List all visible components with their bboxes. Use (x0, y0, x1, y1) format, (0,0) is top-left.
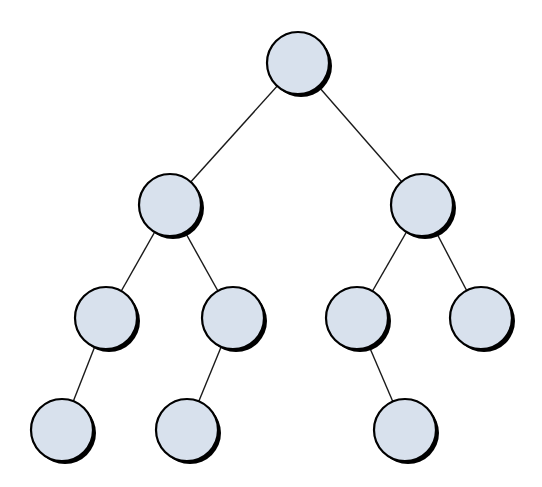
node-circle (267, 32, 329, 94)
tree-node-l1-left (139, 174, 204, 239)
tree-node-l3-a (31, 399, 96, 464)
node-circle (326, 287, 388, 349)
node-circle (75, 287, 137, 349)
node-circle (156, 399, 218, 461)
tree-diagram (0, 0, 542, 487)
tree-node-l3-b (156, 399, 221, 464)
node-circle (139, 174, 201, 236)
tree-node-l2-d (450, 287, 515, 352)
node-circle (391, 174, 453, 236)
tree-node-l2-a (75, 287, 140, 352)
nodes-layer (31, 32, 515, 464)
node-circle (374, 399, 436, 461)
tree-node-l3-c (374, 399, 439, 464)
tree-node-l2-b (202, 287, 267, 352)
node-circle (450, 287, 512, 349)
node-circle (202, 287, 264, 349)
tree-node-l2-c (326, 287, 391, 352)
edges-layer (62, 63, 481, 430)
tree-node-l1-right (391, 174, 456, 239)
node-circle (31, 399, 93, 461)
